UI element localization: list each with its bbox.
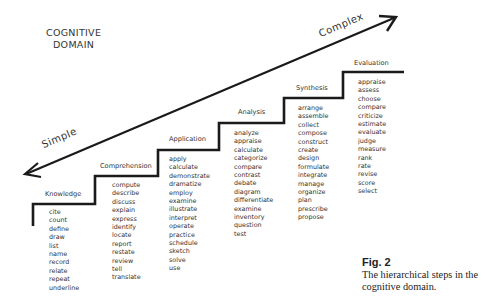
verb-item: interpret <box>169 214 210 222</box>
staircase-line <box>33 72 404 226</box>
verb-item: categorize <box>234 154 273 162</box>
verb-item: cite <box>49 208 79 216</box>
verb-item: appraise <box>234 137 273 145</box>
verb-item: construct <box>298 138 329 146</box>
verb-item: report <box>112 240 141 248</box>
level-label-knowledge: Knowledge <box>45 190 81 198</box>
verb-item: design <box>298 154 329 162</box>
verb-list-comprehension: compute describe discuss explain express… <box>112 181 141 282</box>
verb-item: manage <box>298 180 329 188</box>
figure-number: Fig. 2 <box>362 256 485 269</box>
verb-item: discuss <box>112 198 141 206</box>
verb-item: repeat <box>49 275 79 283</box>
verb-item: plan <box>298 196 329 204</box>
verb-item: practice <box>169 231 210 239</box>
verb-item: calculate <box>234 146 273 154</box>
verb-item: measure <box>358 145 386 153</box>
level-label-application: Application <box>169 135 206 143</box>
verb-item: examine <box>234 205 273 213</box>
level-label-comprehension: Comprehension <box>100 162 152 170</box>
verb-item: operate <box>169 222 210 230</box>
verb-item: assess <box>358 86 386 94</box>
verb-item: compare <box>358 103 386 111</box>
verb-item: describe <box>112 189 141 197</box>
verb-item: define <box>49 225 79 233</box>
verb-item: prescribe <box>298 205 329 213</box>
verb-item: sketch <box>169 247 210 255</box>
verb-item: identify <box>112 223 141 231</box>
verb-item: arrange <box>298 104 329 112</box>
verb-item: rank <box>358 154 386 162</box>
verb-item: relate <box>49 267 79 275</box>
verb-item: differentiate <box>234 196 273 204</box>
verb-item: examine <box>169 197 210 205</box>
verb-item: assemble <box>298 112 329 120</box>
verb-item: judge <box>358 137 386 145</box>
verb-item: dramatize <box>169 180 210 188</box>
verb-item: illustrate <box>169 205 210 213</box>
verb-item: locate <box>112 231 141 239</box>
verb-item: underline <box>49 284 79 292</box>
verb-item: solve <box>169 256 210 264</box>
verb-item: collect <box>298 121 329 129</box>
verb-item: apply <box>169 155 210 163</box>
verb-item: compose <box>298 129 329 137</box>
verb-item: analyze <box>234 129 273 137</box>
verb-item: explain <box>112 206 141 214</box>
verb-item: schedule <box>169 239 210 247</box>
verb-item: calculate <box>169 163 210 171</box>
verb-item: choose <box>358 95 386 103</box>
verb-item: organize <box>298 188 329 196</box>
verb-item: score <box>358 179 386 187</box>
verb-item: rate <box>358 162 386 170</box>
level-label-analysis: Analysis <box>238 108 265 116</box>
verb-item: test <box>234 230 273 238</box>
verb-item: tell <box>112 265 141 273</box>
verb-item: employ <box>169 189 210 197</box>
verb-item: translate <box>112 273 141 281</box>
verb-item: criticize <box>358 112 386 120</box>
verb-item: propose <box>298 213 329 221</box>
verb-item: compute <box>112 181 141 189</box>
verb-item: revise <box>358 170 386 178</box>
verb-item: estimate <box>358 120 386 128</box>
verb-item: diagram <box>234 188 273 196</box>
verb-item: demonstrate <box>169 172 210 180</box>
verb-item: name <box>49 250 79 258</box>
verb-item: restate <box>112 248 141 256</box>
verb-item: formulate <box>298 163 329 171</box>
verb-list-synthesis: arrange assemble collect compose constru… <box>298 104 329 222</box>
verb-list-evaluation: appraise assess choose compare criticize… <box>358 78 386 196</box>
verb-item: create <box>298 146 329 154</box>
verb-item: use <box>169 264 210 272</box>
verb-list-analysis: analyze appraise calculate categorize co… <box>234 129 273 238</box>
verb-item: select <box>358 187 386 195</box>
verb-item: list <box>49 242 79 250</box>
verb-item: compare <box>234 163 273 171</box>
verb-list-application: apply calculate demonstrate dramatize em… <box>169 155 210 273</box>
verb-item: appraise <box>358 78 386 86</box>
verb-item: review <box>112 257 141 265</box>
figure-caption-text: The hierarchical steps in the cognitive … <box>362 269 485 293</box>
verb-item: debate <box>234 179 273 187</box>
verb-item: integrate <box>298 171 329 179</box>
verb-item: evaluate <box>358 128 386 136</box>
level-label-synthesis: Synthesis <box>296 84 328 92</box>
verb-item: express <box>112 215 141 223</box>
verb-list-knowledge: cite count define draw list name record … <box>49 208 79 292</box>
verb-item: count <box>49 216 79 224</box>
verb-item: question <box>234 221 273 229</box>
verb-item: inventory <box>234 213 273 221</box>
figure-caption: Fig. 2 The hierarchical steps in the cog… <box>362 256 485 293</box>
level-label-evaluation: Evaluation <box>354 59 389 67</box>
verb-item: draw <box>49 233 79 241</box>
verb-item: record <box>49 258 79 266</box>
verb-item: contrast <box>234 171 273 179</box>
